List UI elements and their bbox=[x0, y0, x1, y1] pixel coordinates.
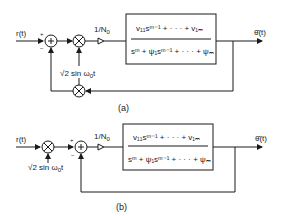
block-diagram-canvas: r(t) + − 1/N0 √2 sin ω0t v₁₁sᵐ⁻¹ + · · ·… bbox=[0, 0, 286, 216]
output-label-b: θ̂(t) bbox=[255, 134, 267, 143]
output-label-a: θ̂(t) bbox=[254, 28, 266, 37]
gain-label-b: 1/N0 bbox=[94, 132, 110, 142]
tf-numerator-a: v₁₁sᵐ⁻¹ + · · · + v₁ₘ bbox=[136, 24, 203, 33]
tf-denominator-a: sᵐ + ψ₁sᵐ⁻¹ + · · · + ψₘ bbox=[131, 47, 214, 56]
summer-minus-sign-a: − bbox=[40, 45, 44, 51]
mixer-label-b: √2 sin ω0t bbox=[28, 163, 64, 173]
caption-a: (a) bbox=[118, 103, 129, 113]
summer-plus-sign-a: + bbox=[40, 31, 44, 37]
summer-minus-sign-b: − bbox=[71, 152, 75, 158]
gain-triangle-b bbox=[98, 144, 104, 150]
caption-b: (b) bbox=[116, 202, 127, 212]
input-label-a: r(t) bbox=[16, 29, 27, 38]
summer-plus-sign-b: + bbox=[70, 137, 74, 143]
tf-denominator-b: sᵐ + ψ₁sᵐ⁻¹ + · · · + ψₘ bbox=[128, 155, 211, 164]
gain-label-a: 1/N0 bbox=[94, 25, 110, 35]
gain-triangle-a bbox=[98, 38, 104, 44]
input-label-b: r(t) bbox=[16, 135, 27, 144]
tf-numerator-b: v₁₁sᵐ⁻¹ + · · · + v₁ₘ bbox=[133, 133, 200, 142]
labels-a: r(t) + − 1/N0 √2 sin ω0t v₁₁sᵐ⁻¹ + · · ·… bbox=[16, 24, 266, 113]
mixer-label-a: √2 sin ω0t bbox=[60, 69, 96, 79]
